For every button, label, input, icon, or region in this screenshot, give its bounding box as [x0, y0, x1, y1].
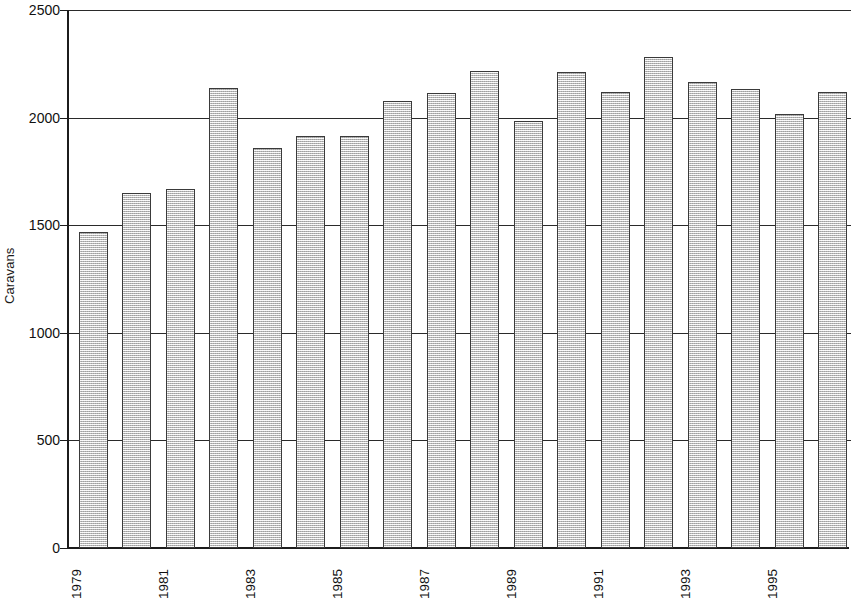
bar: [514, 121, 543, 548]
bar: [775, 114, 804, 548]
bar: [427, 93, 456, 548]
bar: [601, 92, 630, 548]
bars-container: [67, 10, 849, 548]
x-axis-tick-label: 1979: [70, 553, 116, 599]
x-axis-tick-label: 1995: [766, 553, 812, 599]
bar: [296, 136, 325, 548]
x-axis-tick-labels: 197919811983198519871989199119931995: [0, 553, 849, 601]
y-axis-tick-label: 2500: [14, 3, 60, 17]
bar: [383, 101, 412, 548]
x-axis-tick-label: 1989: [505, 553, 551, 599]
x-axis-tick-label: 1987: [418, 553, 464, 599]
bar: [122, 193, 151, 548]
bar: [340, 136, 369, 548]
x-axis-tick-label: 1991: [592, 553, 638, 599]
bar: [209, 88, 238, 548]
x-axis-tick-label: 1981: [157, 553, 203, 599]
x-axis-tick-label: 1983: [244, 553, 290, 599]
bar: [253, 148, 282, 548]
x-axis-tick-label: 1993: [679, 553, 725, 599]
bar: [166, 189, 195, 548]
bar: [470, 71, 499, 548]
y-axis-title: Caravans: [0, 228, 20, 324]
bar: [79, 232, 108, 548]
bar: [688, 82, 717, 548]
y-axis-tick-label: 1000: [14, 326, 60, 340]
bar: [644, 57, 673, 548]
y-axis-tickmark: [60, 548, 68, 549]
y-axis-tick-label: 1500: [14, 218, 60, 232]
y-axis-tick-label: 500: [14, 433, 60, 447]
bar: [557, 72, 586, 548]
bar: [818, 92, 847, 548]
bar: [731, 89, 760, 548]
y-axis-tick-label: 2000: [14, 111, 60, 125]
x-axis-tick-label: 1985: [331, 553, 377, 599]
